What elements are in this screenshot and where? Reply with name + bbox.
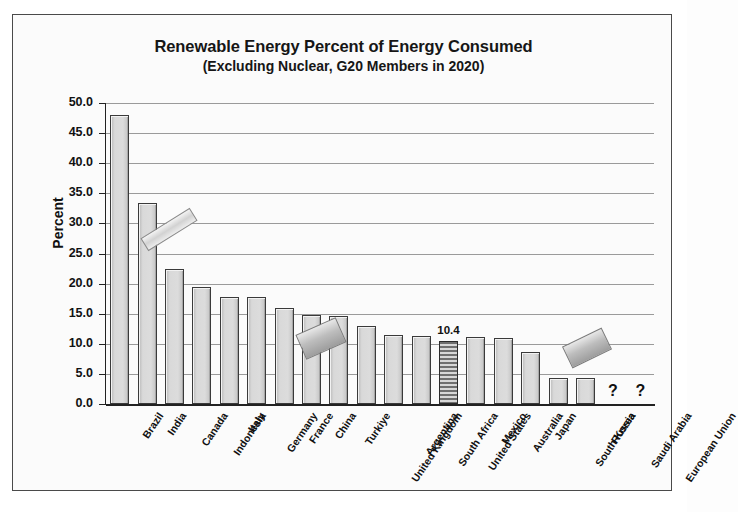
bar-japan — [521, 352, 540, 404]
unknown-value-marker: ? — [625, 382, 655, 400]
y-axis-tick-label: 15.0 — [33, 306, 93, 320]
grid-line — [106, 254, 654, 255]
bar-south-korea — [549, 378, 568, 404]
grid-line — [106, 374, 654, 375]
grid-line — [106, 314, 654, 315]
chart-subtitle: (Excluding Nuclear, G20 Members in 2020) — [0, 57, 687, 76]
bar-germany — [247, 297, 266, 404]
y-axis-tick-label: 5.0 — [33, 366, 93, 380]
bar-south-africa — [412, 336, 431, 404]
bar-france — [275, 308, 294, 404]
y-axis-tick-label: 20.0 — [33, 276, 93, 290]
y-axis-tick-label: 10.0 — [33, 336, 93, 350]
bar-mexico — [466, 337, 485, 404]
x-axis-line — [106, 404, 655, 406]
y-axis-tick-label: 30.0 — [33, 215, 93, 229]
chart-title-block: Renewable Energy Percent of Energy Consu… — [0, 36, 687, 76]
bar-indonesia — [192, 287, 211, 404]
y-axis-line — [105, 103, 106, 405]
y-axis-tick-label: 40.0 — [33, 155, 93, 169]
bar-united-states — [439, 341, 458, 404]
y-axis-tick-label: 25.0 — [33, 246, 93, 260]
bar-italy — [220, 297, 239, 404]
unknown-value-marker: ? — [598, 382, 628, 400]
chart-title: Renewable Energy Percent of Energy Consu… — [0, 36, 687, 56]
y-axis-tick-label: 35.0 — [33, 185, 93, 199]
bar-argentina — [384, 335, 403, 404]
y-axis-tick-label: 45.0 — [33, 125, 93, 139]
bar-value-label: 10.4 — [419, 324, 479, 336]
y-axis-tick-label: 0.0 — [33, 396, 93, 410]
bar-united-kingdom — [357, 326, 376, 404]
x-axis-tick-label: European Union — [683, 410, 738, 484]
grid-line — [106, 284, 654, 285]
grid-line — [106, 193, 654, 194]
bar-canada — [165, 269, 184, 404]
bar-brazil — [110, 115, 129, 404]
y-axis-tick-label: 50.0 — [33, 95, 93, 109]
grid-line — [106, 133, 654, 134]
grid-line — [106, 103, 654, 104]
bar-australia — [494, 338, 513, 404]
grid-line — [106, 163, 654, 164]
bar-russia — [576, 378, 595, 404]
